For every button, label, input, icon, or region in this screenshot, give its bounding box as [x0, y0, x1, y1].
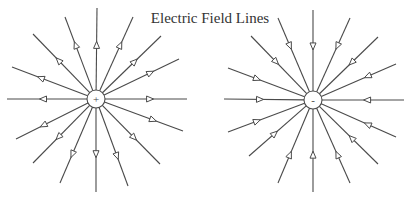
- arrowhead-icon: [147, 96, 154, 102]
- field-line: [96, 8, 97, 90]
- negative-charge-field: -: [224, 10, 404, 192]
- positive-charge-sign: +: [93, 93, 99, 105]
- field-line: [99, 107, 128, 186]
- field-lines-diagram: +-: [0, 0, 412, 198]
- arrowhead-icon: [71, 150, 77, 158]
- arrowhead-icon: [310, 43, 316, 50]
- arrowhead-icon: [336, 42, 342, 50]
- arrowhead-icon: [364, 72, 372, 78]
- field-line: [33, 34, 90, 93]
- field-line: [321, 104, 396, 137]
- field-line: [104, 102, 183, 131]
- arrowhead-icon: [93, 151, 99, 158]
- negative-charge-sign: -: [311, 94, 315, 106]
- positive-charge-field: +: [7, 8, 187, 192]
- arrowhead-icon: [364, 123, 372, 129]
- field-line: [321, 64, 396, 96]
- field-line: [102, 105, 160, 164]
- field-line: [228, 68, 305, 97]
- arrowhead-icon: [364, 97, 371, 103]
- arrowhead-icon: [116, 42, 122, 50]
- arrowhead-icon: [310, 151, 316, 158]
- arrowhead-icon: [94, 41, 100, 48]
- arrowhead-icon: [149, 116, 157, 122]
- arrowhead-icon: [256, 96, 263, 102]
- arrowhead-icon: [336, 151, 342, 159]
- field-line: [65, 17, 93, 91]
- arrowhead-icon: [253, 119, 261, 125]
- field-line: [12, 67, 88, 96]
- arrowhead-icon: [146, 71, 154, 77]
- arrowhead-icon: [286, 42, 292, 50]
- arrowhead-icon: [74, 42, 80, 50]
- arrowhead-icon: [37, 76, 45, 82]
- arrowhead-icon: [40, 96, 47, 102]
- arrowhead-icon: [286, 151, 292, 159]
- field-line: [104, 59, 179, 95]
- field-line: [16, 103, 88, 139]
- arrowhead-icon: [253, 75, 261, 81]
- field-line: [278, 108, 310, 183]
- arrowhead-icon: [113, 152, 119, 160]
- arrowhead-icon: [40, 121, 48, 127]
